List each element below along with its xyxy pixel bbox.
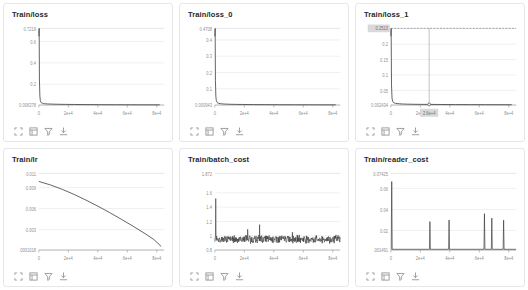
panel-train-loss-1: Train/loss_1 0.25130.20.150.10.050.00243… bbox=[352, 0, 528, 145]
plot-area[interactable]: 0.72190.60.40.20.00637802e+44e+46e+48e+4 bbox=[8, 20, 168, 123]
svg-text:0.1: 0.1 bbox=[382, 73, 388, 79]
chart-card: Train/loss_0 0.47080.40.30.20.10.0009430… bbox=[179, 3, 349, 142]
svg-text:0.000943: 0.000943 bbox=[195, 103, 212, 109]
svg-text:0.06: 0.06 bbox=[380, 186, 388, 192]
plot-area[interactable]: 1.8721.61.41.210.802e+44e+46e+48e+4 bbox=[184, 165, 344, 268]
panel-title: Train/reader_cost bbox=[360, 153, 520, 165]
svg-text:0.1: 0.1 bbox=[206, 87, 212, 93]
svg-text:0.009: 0.009 bbox=[26, 185, 37, 191]
svg-text:0.4: 0.4 bbox=[206, 38, 212, 44]
plot-area[interactable]: 0.47080.40.30.20.10.00094302e+44e+46e+48… bbox=[184, 20, 344, 123]
svg-text:0.15: 0.15 bbox=[380, 57, 388, 63]
panel-train-reader-cost: Train/reader_cost 0.074250.060.040.02.00… bbox=[352, 145, 528, 290]
fullscreen-icon[interactable] bbox=[366, 272, 375, 281]
svg-text:2e+4: 2e+4 bbox=[240, 255, 249, 261]
svg-text:2.6e+4: 2.6e+4 bbox=[423, 110, 436, 116]
fullscreen-icon[interactable] bbox=[190, 272, 199, 281]
svg-text:1.872: 1.872 bbox=[202, 171, 213, 177]
download-icon[interactable] bbox=[59, 127, 68, 136]
chart-svg: 1.8721.61.41.210.802e+44e+46e+48e+4 bbox=[184, 165, 344, 268]
download-icon[interactable] bbox=[235, 272, 244, 281]
chart-card: Train/loss_1 0.25130.20.150.10.050.00243… bbox=[355, 3, 525, 142]
download-icon[interactable] bbox=[235, 127, 244, 136]
restore-size-icon[interactable] bbox=[29, 272, 38, 281]
chart-toolbar bbox=[184, 268, 344, 284]
panel-train-loss: Train/loss 0.72190.60.40.20.00637802e+44… bbox=[0, 0, 176, 145]
svg-text:0.006378: 0.006378 bbox=[19, 103, 36, 109]
panel-title: Train/loss_0 bbox=[184, 8, 344, 20]
chart-svg: 0.25130.20.150.10.050.00243402e+44e+46e+… bbox=[360, 20, 520, 123]
svg-text:0.3: 0.3 bbox=[206, 54, 212, 60]
svg-text:0.4: 0.4 bbox=[30, 61, 36, 67]
svg-text:0.07425: 0.07425 bbox=[373, 171, 388, 177]
chart-card: Train/batch_cost 1.8721.61.41.210.802e+4… bbox=[179, 148, 349, 287]
restore-size-icon[interactable] bbox=[205, 127, 214, 136]
svg-text:0.05: 0.05 bbox=[380, 88, 388, 94]
restore-size-icon[interactable] bbox=[381, 272, 390, 281]
svg-text:4e+4: 4e+4 bbox=[93, 255, 102, 261]
filter-icon[interactable] bbox=[396, 272, 405, 281]
fullscreen-icon[interactable] bbox=[190, 127, 199, 136]
svg-text:6e+4: 6e+4 bbox=[123, 110, 132, 116]
svg-text:6e+4: 6e+4 bbox=[475, 255, 484, 261]
svg-text:0.02: 0.02 bbox=[380, 228, 388, 234]
svg-text:0: 0 bbox=[390, 255, 393, 261]
plot-area[interactable]: 0.0110.0090.0060.003.000101802e+44e+46e+… bbox=[8, 165, 168, 268]
restore-size-icon[interactable] bbox=[205, 272, 214, 281]
restore-size-icon[interactable] bbox=[381, 127, 390, 136]
svg-text:.0001018: .0001018 bbox=[19, 248, 36, 254]
chart-toolbar bbox=[360, 268, 520, 284]
svg-text:1.4: 1.4 bbox=[206, 205, 212, 211]
svg-text:0.2: 0.2 bbox=[30, 82, 36, 88]
svg-text:2e+4: 2e+4 bbox=[240, 110, 249, 116]
fullscreen-icon[interactable] bbox=[366, 127, 375, 136]
filter-icon[interactable] bbox=[44, 127, 53, 136]
plot-area[interactable]: 0.074250.060.040.02.00149102e+44e+46e+48… bbox=[360, 165, 520, 268]
svg-text:0.002434: 0.002434 bbox=[371, 103, 388, 109]
filter-icon[interactable] bbox=[44, 272, 53, 281]
chart-svg: 0.72190.60.40.20.00637802e+44e+46e+48e+4 bbox=[8, 20, 168, 123]
download-icon[interactable] bbox=[411, 272, 420, 281]
fullscreen-icon[interactable] bbox=[14, 127, 23, 136]
svg-text:8e+4: 8e+4 bbox=[504, 255, 513, 261]
chart-toolbar bbox=[184, 123, 344, 139]
svg-text:4e+4: 4e+4 bbox=[445, 255, 454, 261]
svg-text:0.7219: 0.7219 bbox=[24, 26, 37, 32]
chart-svg: 0.0110.0090.0060.003.000101802e+44e+46e+… bbox=[8, 165, 168, 268]
svg-text:2e+4: 2e+4 bbox=[64, 110, 73, 116]
download-icon[interactable] bbox=[59, 272, 68, 281]
chart-toolbar bbox=[360, 123, 520, 139]
chart-card: Train/reader_cost 0.074250.060.040.02.00… bbox=[355, 148, 525, 287]
svg-text:0.003: 0.003 bbox=[26, 227, 37, 233]
svg-text:0.011: 0.011 bbox=[26, 171, 36, 177]
svg-text:.001491: .001491 bbox=[373, 248, 388, 254]
panel-train-batch-cost: Train/batch_cost 1.8721.61.41.210.802e+4… bbox=[176, 145, 352, 290]
svg-text:8e+4: 8e+4 bbox=[152, 110, 161, 116]
chart-svg: 0.074250.060.040.02.00149102e+44e+46e+48… bbox=[360, 165, 520, 268]
svg-text:4e+4: 4e+4 bbox=[445, 110, 454, 116]
restore-size-icon[interactable] bbox=[29, 127, 38, 136]
svg-text:8e+4: 8e+4 bbox=[152, 255, 161, 261]
plot-area[interactable]: 0.25130.20.150.10.050.00243402e+44e+46e+… bbox=[360, 20, 520, 123]
svg-text:6e+4: 6e+4 bbox=[299, 110, 308, 116]
filter-icon[interactable] bbox=[396, 127, 405, 136]
svg-text:1.2: 1.2 bbox=[206, 219, 212, 225]
fullscreen-icon[interactable] bbox=[14, 272, 23, 281]
svg-text:0.006: 0.006 bbox=[26, 206, 37, 212]
svg-text:1.6: 1.6 bbox=[206, 191, 212, 197]
chart-svg: 0.47080.40.30.20.10.00094302e+44e+46e+48… bbox=[184, 20, 344, 123]
download-icon[interactable] bbox=[411, 127, 420, 136]
panel-title: Train/loss bbox=[8, 8, 168, 20]
panel-train-loss-0: Train/loss_0 0.47080.40.30.20.10.0009430… bbox=[176, 0, 352, 145]
chart-grid: Train/loss 0.72190.60.40.20.00637802e+44… bbox=[0, 0, 528, 290]
svg-text:0: 0 bbox=[214, 110, 217, 116]
filter-icon[interactable] bbox=[220, 272, 229, 281]
svg-text:0: 0 bbox=[38, 255, 41, 261]
panel-title: Train/batch_cost bbox=[184, 153, 344, 165]
filter-icon[interactable] bbox=[220, 127, 229, 136]
svg-text:0.04: 0.04 bbox=[380, 207, 388, 213]
svg-text:0: 0 bbox=[390, 110, 393, 116]
svg-text:8e+4: 8e+4 bbox=[504, 110, 513, 116]
svg-text:0.8: 0.8 bbox=[206, 248, 212, 254]
svg-text:0.4708: 0.4708 bbox=[200, 26, 213, 32]
